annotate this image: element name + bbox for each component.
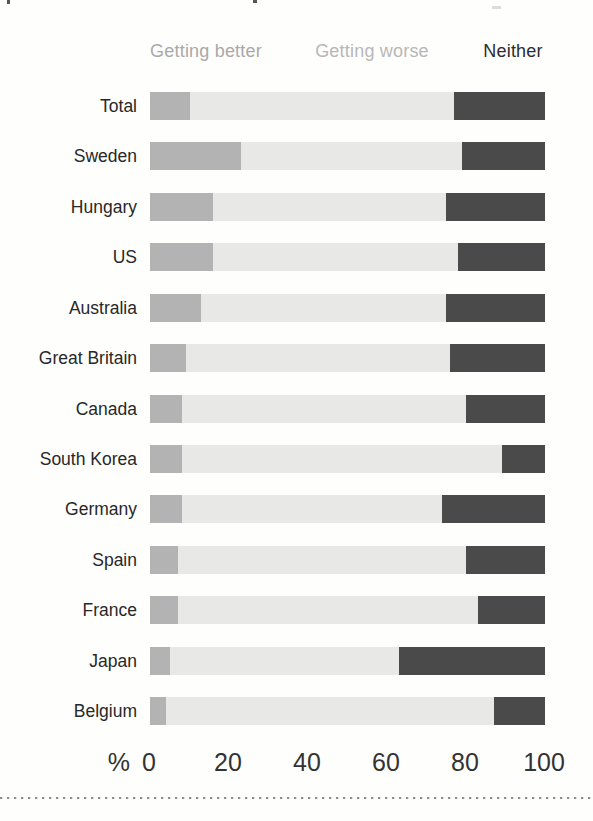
stacked-bar <box>150 142 545 170</box>
segment-getting-worse <box>190 92 455 120</box>
row-label: US <box>0 243 137 271</box>
segment-getting-better <box>150 697 166 725</box>
stacked-bar <box>150 395 545 423</box>
segment-getting-worse <box>186 344 451 372</box>
chart-row-south-korea: South Korea <box>0 445 593 473</box>
row-label: Canada <box>0 395 137 423</box>
stacked-bar <box>150 495 545 523</box>
legend-getting-better: Getting better <box>150 41 262 62</box>
segment-getting-worse <box>213 193 446 221</box>
legend-neither: Neither <box>483 41 542 62</box>
segment-neither <box>446 294 545 322</box>
stacked-bar <box>150 445 545 473</box>
segment-getting-worse <box>182 395 466 423</box>
stacked-bar <box>150 294 545 322</box>
axis-tick-60: 60 <box>372 750 400 774</box>
row-label: Belgium <box>0 697 137 725</box>
stacked-bar <box>150 647 545 675</box>
segment-getting-worse <box>201 294 446 322</box>
stacked-bar <box>150 243 545 271</box>
segment-getting-better <box>150 344 186 372</box>
segment-neither <box>458 243 545 271</box>
segment-neither <box>478 596 545 624</box>
row-label: Australia <box>0 294 137 322</box>
segment-getting-worse <box>178 596 478 624</box>
chart-row-australia: Australia <box>0 294 593 322</box>
segment-getting-better <box>150 495 182 523</box>
axis-tick-20: 20 <box>214 750 242 774</box>
segment-getting-better <box>150 546 178 574</box>
axis-tick-100: 100 <box>523 750 565 774</box>
segment-neither <box>442 495 545 523</box>
dotted-rule <box>0 796 593 800</box>
segment-getting-worse <box>182 495 443 523</box>
row-label: Japan <box>0 647 137 675</box>
row-label: Spain <box>0 546 137 574</box>
chart-row-belgium: Belgium <box>0 697 593 725</box>
row-label: Sweden <box>0 142 137 170</box>
segment-getting-better <box>150 596 178 624</box>
chart-row-total: Total <box>0 92 593 120</box>
row-label: France <box>0 596 137 624</box>
segment-getting-better <box>150 193 213 221</box>
scan-artifact-tick <box>253 0 257 3</box>
segment-getting-worse <box>182 445 502 473</box>
chart-row-us: US <box>0 243 593 271</box>
segment-getting-worse <box>166 697 494 725</box>
axis-tick-0: 0 <box>142 750 156 774</box>
row-label: Total <box>0 92 137 120</box>
stacked-bar <box>150 193 545 221</box>
chart-row-hungary: Hungary <box>0 193 593 221</box>
segment-getting-worse <box>170 647 399 675</box>
scanned-chart-page: Getting better Getting worse Neither Tot… <box>0 0 593 821</box>
segment-neither <box>502 445 545 473</box>
axis-tick-80: 80 <box>451 750 479 774</box>
row-label: Great Britain <box>0 344 137 372</box>
row-label: Germany <box>0 495 137 523</box>
chart-row-spain: Spain <box>0 546 593 574</box>
scan-artifact-speck <box>492 6 501 9</box>
segment-neither <box>466 546 545 574</box>
stacked-bar <box>150 596 545 624</box>
chart-row-canada: Canada <box>0 395 593 423</box>
row-label: Hungary <box>0 193 137 221</box>
legend-getting-worse: Getting worse <box>315 41 429 62</box>
stacked-bar <box>150 546 545 574</box>
segment-neither <box>399 647 545 675</box>
segment-getting-better <box>150 243 213 271</box>
segment-getting-worse <box>241 142 462 170</box>
segment-getting-worse <box>178 546 466 574</box>
chart-row-germany: Germany <box>0 495 593 523</box>
chart-row-sweden: Sweden <box>0 142 593 170</box>
segment-neither <box>450 344 545 372</box>
segment-getting-better <box>150 142 241 170</box>
row-label: South Korea <box>0 445 137 473</box>
segment-neither <box>466 395 545 423</box>
axis-unit-label: % <box>60 750 130 774</box>
segment-getting-worse <box>213 243 458 271</box>
stacked-bar <box>150 697 545 725</box>
segment-neither <box>494 697 545 725</box>
stacked-bar <box>150 344 545 372</box>
segment-neither <box>462 142 545 170</box>
segment-getting-better <box>150 647 170 675</box>
scan-artifact-tick <box>7 0 10 4</box>
segment-neither <box>446 193 545 221</box>
segment-getting-better <box>150 445 182 473</box>
axis-tick-40: 40 <box>293 750 321 774</box>
segment-getting-better <box>150 395 182 423</box>
stacked-bar <box>150 92 545 120</box>
chart-row-japan: Japan <box>0 647 593 675</box>
segment-neither <box>454 92 545 120</box>
segment-getting-better <box>150 92 190 120</box>
chart-row-france: France <box>0 596 593 624</box>
chart-row-great-britain: Great Britain <box>0 344 593 372</box>
segment-getting-better <box>150 294 201 322</box>
